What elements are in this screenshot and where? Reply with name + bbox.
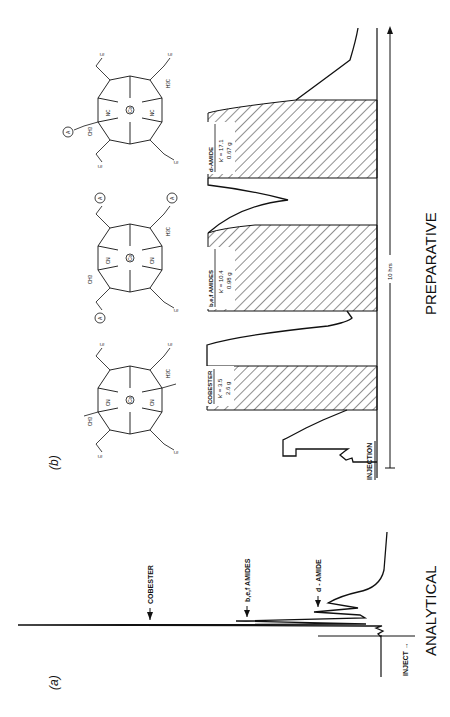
svg-text:NC: NC: [106, 109, 111, 116]
svg-text:E: E: [173, 450, 179, 454]
svg-text:E: E: [167, 52, 173, 56]
inject-label: INJECT →: [402, 642, 409, 676]
svg-text:A: A: [65, 130, 71, 134]
svg-text:CH3: CH3: [88, 275, 93, 284]
svg-text:E: E: [173, 308, 179, 312]
svg-text:A: A: [97, 196, 103, 200]
chromatography-figure: (a) (b) COBESTER b,e,f AMIDES d - AMIDE …: [0, 0, 450, 717]
time-scale-label: 10 hrs: [387, 263, 393, 280]
fraction-d-amide-label: d-AMIDE k' = 17.1 0.67 g: [205, 122, 235, 174]
panel-a-label: (a): [47, 675, 61, 690]
d-amide-peak-label: d - AMIDE: [315, 559, 322, 592]
svg-text:2.6 g: 2.6 g: [225, 382, 231, 395]
svg-text:k' = 3.5: k' = 3.5: [217, 378, 223, 398]
svg-text:H3C: H3C: [166, 368, 171, 378]
bef-amides-peak-label: b,e,f AMIDES: [244, 558, 252, 602]
svg-text:Co: Co: [127, 254, 133, 261]
svg-text:COBESTER: COBESTER: [207, 370, 213, 404]
svg-text:CN: CN: [150, 400, 155, 407]
svg-text:CH3: CH3: [88, 417, 93, 426]
svg-text:H3C: H3C: [166, 226, 171, 236]
structure-d-amide: Co A EE EE CH3H3C NCNC: [63, 52, 179, 168]
svg-text:Co: Co: [127, 396, 133, 403]
svg-text:E: E: [97, 164, 103, 168]
injection-label: INJECTION: [366, 443, 373, 480]
svg-text:CN: CN: [150, 258, 155, 265]
svg-text:E: E: [173, 160, 179, 164]
structure-cobester: Co EE EE CH3H3C CNCN: [84, 342, 179, 458]
analytical-title: ANALYTICAL: [422, 565, 439, 656]
svg-text:d-AMIDE: d-AMIDE: [208, 147, 214, 172]
svg-text:0.98 g: 0.98 g: [226, 272, 232, 289]
panel-b-label: (b): [47, 455, 61, 470]
svg-text:CH3: CH3: [88, 127, 93, 136]
svg-text:Co: Co: [127, 106, 133, 113]
svg-text:0.67 g: 0.67 g: [226, 142, 232, 159]
svg-text:A: A: [97, 316, 103, 320]
svg-text:A: A: [169, 196, 175, 200]
time-axis-arrow-icon: [387, 26, 393, 34]
svg-text:CN: CN: [106, 258, 111, 265]
fraction-cobester-label: COBESTER k' = 3.5 2.6 g: [204, 366, 234, 406]
svg-text:b,e,f AMIDES: b,e,f AMIDES: [208, 270, 214, 307]
structure-bef-amides: Co A A A E CH3H3C CNCN: [88, 193, 179, 323]
analytical-trace: [18, 532, 387, 637]
svg-text:E: E: [99, 52, 105, 56]
svg-text:H3C: H3C: [166, 78, 171, 88]
svg-text:k' = 17.1: k' = 17.1: [218, 139, 224, 162]
cobester-peak-label: COBESTER: [147, 565, 154, 604]
svg-text:E: E: [97, 454, 103, 458]
svg-text:NC: NC: [150, 109, 155, 116]
svg-text:CN: CN: [106, 400, 111, 407]
svg-text:k' = 10.4: k' = 10.4: [218, 270, 224, 293]
fraction-bef-amides-label: b,e,f AMIDES k' = 10.4 0.98 g: [205, 247, 235, 309]
preparative-chromatogram: 10 hrs COBESTER k' = 3.5 2.6 g b,e,f AMI…: [204, 26, 439, 480]
analytical-chromatogram: COBESTER b,e,f AMIDES d - AMIDE INJECT →…: [18, 532, 439, 677]
svg-text:E: E: [167, 342, 173, 346]
preparative-title: PREPARATIVE: [422, 212, 439, 315]
svg-text:E: E: [99, 342, 105, 346]
